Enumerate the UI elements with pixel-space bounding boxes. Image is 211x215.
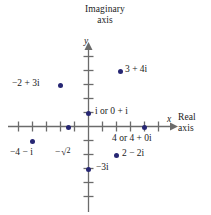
real-axis-title: Real axis bbox=[178, 112, 211, 134]
point-4-plus-0i bbox=[142, 125, 147, 130]
point-minus-sqrt2 bbox=[66, 125, 71, 130]
point-minus-3i bbox=[86, 167, 91, 172]
real-axis-title-line1: Real bbox=[178, 112, 211, 123]
imaginary-axis-title-line2: axis bbox=[55, 15, 155, 26]
point-label-minus4-minus-i: −4 − i bbox=[10, 147, 33, 158]
radical-sign: √2 bbox=[60, 145, 70, 158]
point-label-4-plus-0i: 4 or 4 + 0i bbox=[112, 133, 152, 144]
point-label-minus-3i: −3i bbox=[96, 162, 109, 173]
point-label-minus-sqrt2: −√2 bbox=[55, 145, 71, 158]
point-minus4-minus-i bbox=[30, 139, 35, 144]
real-axis-title-line2: axis bbox=[178, 123, 211, 134]
point-minus2-plus-3i bbox=[58, 83, 63, 88]
point-label-i: i or 0 + i bbox=[95, 106, 128, 117]
point-label-minus2-plus-3i: −2 + 3i bbox=[12, 78, 40, 89]
point-i bbox=[86, 111, 91, 116]
imaginary-axis-title-line1: Imaginary bbox=[55, 4, 155, 15]
point-label-2-minus-2i: 2 − 2i bbox=[122, 148, 144, 159]
point-label-3-plus-4i: 3 + 4i bbox=[125, 64, 147, 75]
imaginary-axis-title: Imaginary axis bbox=[55, 4, 155, 26]
y-axis-variable-label: y bbox=[84, 36, 88, 46]
point-2-minus-2i bbox=[114, 153, 119, 158]
complex-plane-figure: Imaginary axis Real axis y x 3 + 4i −2 +… bbox=[0, 0, 211, 215]
radicand: 2 bbox=[67, 146, 71, 155]
x-axis-variable-label: x bbox=[167, 114, 171, 124]
point-3-plus-4i bbox=[118, 69, 123, 74]
